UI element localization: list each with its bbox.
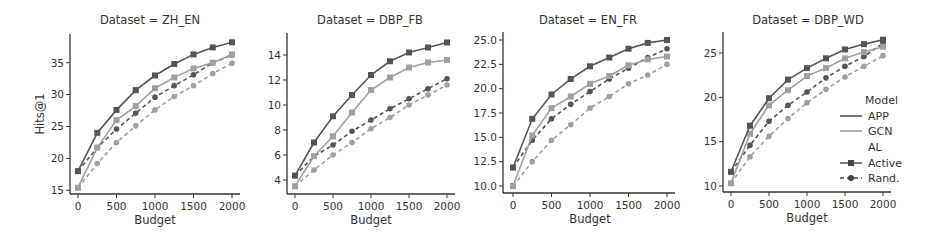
legend-label-active: Active	[868, 157, 902, 170]
subplot-title: Dataset = EN_FR	[539, 13, 637, 27]
square-marker-icon	[804, 65, 810, 71]
x-axis-label: Budget	[134, 213, 176, 227]
legend-header-model: Model	[865, 94, 898, 107]
circle-marker-icon	[444, 76, 450, 82]
square-marker-icon	[549, 92, 555, 98]
circle-marker-icon	[171, 83, 177, 89]
circle-marker-icon	[568, 122, 574, 128]
circle-marker-icon	[349, 140, 355, 146]
circle-marker-icon	[606, 94, 612, 100]
square-marker-icon	[861, 49, 867, 55]
square-marker-icon	[626, 62, 632, 68]
subplot-1: Dataset = ZH_EN1520253035050010001500200…	[51, 13, 246, 227]
legend: Model APP GCN AL Active Rand.	[840, 94, 902, 185]
square-marker-icon	[94, 145, 100, 151]
square-marker-icon	[510, 183, 516, 189]
series-line	[513, 40, 667, 168]
x-tick-label: 1500	[180, 200, 207, 212]
circle-marker-icon	[425, 86, 431, 92]
square-marker-icon	[510, 165, 516, 171]
square-marker-icon	[785, 87, 791, 93]
square-marker-icon	[842, 55, 848, 61]
square-marker-icon	[311, 140, 317, 146]
square-marker-icon	[75, 168, 81, 174]
subplot-2: Dataset = DBP_FB468101214050010001500200…	[268, 13, 461, 227]
circle-marker-icon	[349, 128, 355, 134]
y-tick-label: 15	[51, 184, 64, 196]
square-marker-icon	[349, 92, 355, 98]
subplot-title: Dataset = DBP_WD	[752, 13, 864, 27]
series-line	[78, 55, 232, 171]
y-tick-label: 10.0	[474, 180, 497, 192]
square-marker-icon	[664, 37, 670, 43]
circle-marker-icon	[645, 72, 651, 78]
legend-label-gcn: GCN	[868, 125, 892, 138]
figure: Dataset = ZH_EN1520253035050010001500200…	[0, 0, 931, 235]
circle-marker-icon	[747, 154, 753, 160]
square-marker-icon	[171, 61, 177, 67]
square-marker-icon	[114, 117, 120, 123]
square-marker-icon	[529, 116, 535, 122]
x-tick-label: 1000	[577, 199, 604, 211]
square-marker-icon	[645, 56, 651, 62]
square-marker-icon	[728, 169, 734, 175]
circle-marker-icon	[94, 161, 100, 167]
square-marker-icon	[210, 60, 216, 66]
square-marker-icon	[229, 39, 235, 45]
square-marker-icon	[549, 105, 555, 111]
subplot-title: Dataset = ZH_EN	[100, 13, 200, 27]
subplot-3: Dataset = EN_FR10.012.515.017.520.022.52…	[474, 13, 681, 226]
y-axis-title: Hits@1	[33, 93, 47, 134]
square-marker-icon	[94, 130, 100, 136]
y-tick-label: 12.5	[474, 155, 497, 167]
square-marker-icon	[191, 51, 197, 57]
square-marker-icon	[444, 57, 450, 63]
y-tick-label: 6	[274, 149, 281, 161]
y-tick-label: 30	[51, 88, 64, 100]
circle-marker-icon	[444, 82, 450, 88]
x-tick-label: 1500	[832, 198, 859, 210]
y-tick-label: 20.0	[474, 82, 497, 94]
circle-marker-icon	[114, 140, 120, 146]
y-tick-label: 20	[51, 152, 64, 164]
x-tick-label: 1000	[794, 198, 821, 210]
circle-marker-icon	[133, 110, 139, 116]
circle-marker-icon	[311, 167, 317, 173]
circle-marker-icon	[664, 46, 670, 52]
subplot-title: Dataset = DBP_FB	[317, 13, 423, 27]
square-marker-icon	[349, 110, 355, 116]
circle-marker-icon	[664, 62, 670, 68]
square-marker-icon	[292, 173, 298, 179]
circle-marker-icon	[368, 126, 374, 132]
y-tick-label: 25.0	[474, 34, 497, 46]
circle-marker-icon	[191, 83, 197, 89]
square-marker-icon	[406, 65, 412, 71]
y-tick-label: 17.5	[474, 107, 497, 119]
circle-marker-icon	[880, 53, 886, 59]
circle-marker-icon	[823, 87, 829, 93]
series-gcn-rand-	[728, 53, 886, 186]
circle-marker-icon	[842, 64, 848, 70]
y-tick-label: 10	[268, 99, 281, 111]
circle-marker-icon	[529, 159, 535, 165]
square-marker-icon	[823, 55, 829, 61]
y-tick-label: 12	[268, 74, 281, 86]
series-gcn-rand-	[510, 62, 670, 189]
series-line	[78, 63, 232, 187]
x-axis-label: Budget	[350, 213, 392, 227]
x-tick-label: 0	[75, 200, 82, 212]
square-marker-icon	[133, 103, 139, 109]
circle-marker-icon	[387, 106, 393, 112]
circle-marker-icon	[861, 64, 867, 70]
x-tick-label: 0	[292, 200, 299, 212]
square-marker-icon	[880, 44, 886, 50]
square-marker-icon	[766, 102, 772, 108]
square-marker-icon	[823, 65, 829, 71]
square-marker-icon	[171, 74, 177, 80]
x-tick-label: 500	[541, 199, 561, 211]
square-marker-icon	[387, 75, 393, 81]
circle-marker-icon	[785, 103, 791, 109]
y-tick-label: 20	[704, 91, 717, 103]
y-tick-label: 4	[274, 174, 281, 186]
circle-marker-icon	[425, 92, 431, 98]
